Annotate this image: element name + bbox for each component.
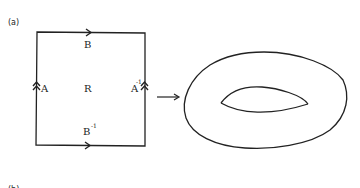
bottom-edge-label: B — [83, 126, 90, 137]
part-label-a: (a) — [8, 18, 19, 27]
mapping-arrow-icon — [157, 94, 179, 100]
torus-shape — [184, 52, 346, 148]
torus-construction-diagram: (a) B A R A -1 B -1 (b) — [0, 0, 360, 188]
torus-outer-outline — [184, 52, 346, 148]
left-edge-label: A — [40, 83, 49, 94]
part-label-b: (b) — [8, 185, 19, 188]
torus-hole-upper — [221, 87, 308, 104]
center-region-label: R — [84, 83, 92, 94]
torus-hole-lower — [221, 103, 308, 112]
bottom-edge-superscript: -1 — [91, 122, 97, 129]
right-edge-superscript: -1 — [136, 78, 142, 85]
top-edge-label: B — [84, 39, 91, 50]
